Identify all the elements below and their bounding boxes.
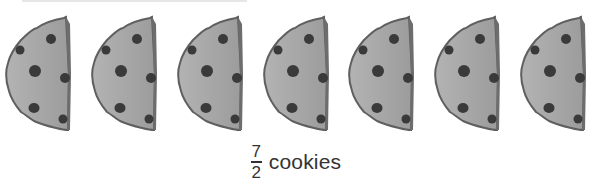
half-cookie-icon <box>4 14 74 132</box>
half-cookie-icon <box>347 14 417 132</box>
half-cookie-icon <box>90 14 160 132</box>
fraction: 7 2 <box>251 143 262 181</box>
half-cookie-icon <box>176 14 246 132</box>
caption: 7 2 cookies <box>0 143 592 181</box>
half-cookie-icon <box>433 14 503 132</box>
half-cookie-icon <box>262 14 332 132</box>
fraction-numerator: 7 <box>251 143 260 160</box>
cookie-row <box>0 14 592 132</box>
fraction-denominator: 2 <box>251 164 260 181</box>
caption-unit: cookies <box>269 150 342 174</box>
half-cookie-icon <box>519 14 589 132</box>
top-rule <box>22 0 247 2</box>
